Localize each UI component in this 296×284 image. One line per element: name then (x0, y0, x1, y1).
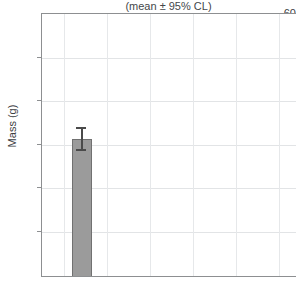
bar-mass[interactable] (72, 139, 92, 277)
gridline-x-6 (279, 14, 280, 276)
gridline-x-4 (193, 14, 194, 276)
gridline-x-1 (64, 14, 65, 276)
gridline-x-5 (236, 14, 237, 276)
gridline-y-40 (42, 101, 296, 102)
chart-title: (mean ± 95% CL) (41, 0, 296, 13)
error-bar-cap-lower (76, 149, 86, 151)
gridline-x-2 (107, 14, 108, 276)
error-bar-stem (81, 127, 83, 150)
y-axis-title: Mass (g) (6, 91, 18, 161)
gridline-y-50 (42, 58, 296, 59)
plot-area (41, 13, 296, 277)
error-bar-cap-upper (76, 127, 86, 129)
chart-container: (mean ± 95% CL) Mass (g) 60 50 40 30 20 … (0, 0, 296, 284)
gridline-x-3 (150, 14, 151, 276)
